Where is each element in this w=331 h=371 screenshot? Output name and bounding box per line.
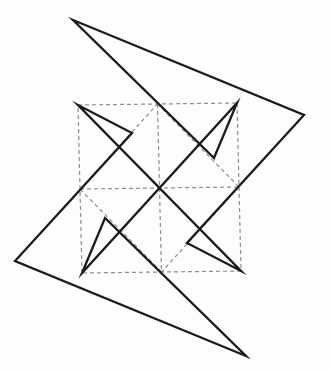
star-polygon-diagram bbox=[0, 0, 331, 371]
solid-closed-path bbox=[15, 20, 304, 356]
solid-star-path bbox=[15, 20, 304, 356]
diagram-page bbox=[0, 0, 331, 371]
